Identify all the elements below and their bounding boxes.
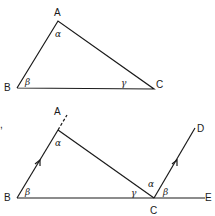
- triangle-figure-1: A B C α β γ: [4, 7, 163, 93]
- angle-gamma-1: γ: [121, 78, 127, 88]
- angle-alpha-a-2: α: [55, 138, 61, 148]
- vertex-label-a-2: A: [54, 106, 61, 117]
- angle-alpha-1: α: [55, 29, 61, 39]
- geometry-diagram: A B C α β γ , A B C D E α β γ α β: [0, 0, 215, 216]
- stray-mark: ,: [0, 119, 3, 130]
- angle-gamma-c-2: γ: [131, 188, 137, 198]
- angle-alpha-c-2: α: [148, 179, 154, 189]
- vertex-label-e: E: [205, 192, 212, 203]
- side-ba: [17, 130, 58, 198]
- triangle-abc-1: [17, 21, 154, 89]
- angle-beta-b-2: β: [24, 187, 30, 197]
- vertex-label-a-1: A: [54, 7, 61, 18]
- vertex-label-c-2: C: [150, 205, 157, 216]
- vertex-label-b-2: B: [4, 192, 11, 203]
- vertex-label-d: D: [197, 123, 204, 134]
- angle-beta-1: β: [24, 77, 30, 87]
- vertex-label-c-1: C: [156, 79, 163, 90]
- extension-dashed-a: [58, 115, 67, 130]
- triangle-figure-2: , A B C D E α β γ α β: [0, 106, 212, 216]
- side-ac: [58, 130, 154, 198]
- vertex-label-b-1: B: [4, 82, 11, 93]
- line-cd: [154, 128, 195, 198]
- angle-beta-c-2: β: [162, 187, 168, 197]
